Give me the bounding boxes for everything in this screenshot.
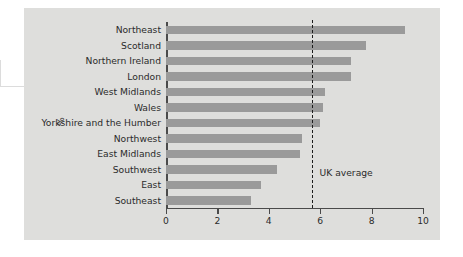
bar-category-label: Wales: [134, 103, 161, 112]
bar-row: Northwest: [166, 131, 423, 147]
bar: [166, 72, 351, 81]
bar-row: Northeast: [166, 22, 423, 38]
bar: [166, 165, 277, 174]
bar: [166, 57, 351, 66]
x-tick: [269, 209, 270, 214]
bar-category-label: Scotland: [121, 41, 161, 50]
bar: [166, 196, 251, 205]
bar-category-label: Northern Ireland: [86, 56, 161, 65]
bar-category-label: West Midlands: [95, 87, 161, 96]
x-tick-label: 10: [417, 216, 429, 225]
bar: [166, 41, 366, 50]
bar-category-label: Southwest: [113, 165, 161, 174]
bar-row: Scotland: [166, 38, 423, 54]
x-tick: [217, 209, 218, 214]
bar: [166, 26, 405, 35]
bar: [166, 134, 302, 143]
bar-category-label: Northwest: [114, 134, 161, 143]
x-axis-line: [166, 208, 424, 209]
x-tick: [372, 209, 373, 214]
x-tick-label: 8: [369, 216, 375, 225]
bar-category-label: Northeast: [116, 25, 161, 34]
x-tick: [423, 209, 424, 214]
bar-series: Northeast Scotland Northern Ireland Lond…: [166, 22, 423, 208]
bar-row: Southwest: [166, 162, 423, 178]
bar-row: Yorkshire and the Humber: [166, 115, 423, 131]
bar-category-label: East Midlands: [97, 149, 161, 158]
bar-category-label: Yorkshire and the Humber: [41, 118, 161, 127]
plot-area: Northeast Scotland Northern Ireland Lond…: [166, 18, 423, 208]
bar-category-label: London: [127, 72, 161, 81]
bar: [166, 88, 325, 97]
bar-row: London: [166, 69, 423, 85]
bar-row: Northern Ireland: [166, 53, 423, 69]
bar-row: Southeast: [166, 193, 423, 209]
uk-average-label: UK average: [319, 168, 372, 177]
bar-category-label: Southeast: [115, 196, 161, 205]
bar-row: East Midlands: [166, 146, 423, 162]
x-tick-label: 6: [317, 216, 323, 225]
x-tick: [166, 209, 167, 214]
bar: [166, 119, 320, 128]
x-tick-label: 2: [214, 216, 220, 225]
x-tick-label: 0: [163, 216, 169, 225]
bar: [166, 103, 323, 112]
bar-row: East: [166, 177, 423, 193]
bar: [166, 181, 261, 190]
x-tick: [320, 209, 321, 214]
chart-panel: % Northeast Scotland Northern Ireland Lo…: [24, 8, 440, 240]
bar: [166, 150, 300, 159]
uk-average-line: [312, 20, 313, 208]
bar-row: Wales: [166, 100, 423, 116]
bar-row: West Midlands: [166, 84, 423, 100]
crop-mark: [0, 60, 27, 87]
x-tick-label: 4: [266, 216, 272, 225]
bar-category-label: East: [141, 180, 161, 189]
